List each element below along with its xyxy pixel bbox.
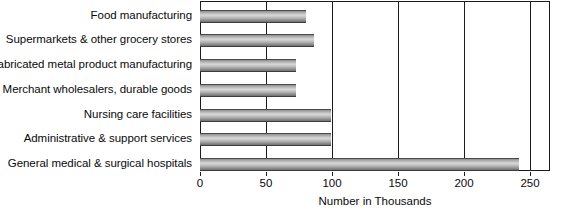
- x-axis-title: Number in Thousands: [200, 195, 550, 207]
- x-tick-label: 100: [322, 177, 341, 189]
- category-axis-labels: Food manufacturing Supermarkets & other …: [0, 0, 196, 172]
- x-axis: Number in Thousands 050100150200250: [0, 172, 565, 218]
- x-tick-label: 50: [260, 177, 273, 189]
- x-tick-label: 150: [388, 177, 407, 189]
- x-tick-label: 250: [520, 177, 539, 189]
- category-label: Supermarkets & other grocery stores: [6, 33, 192, 45]
- x-tick-label: 0: [197, 177, 203, 189]
- x-tick-mark: [398, 172, 399, 176]
- plot-area: [200, 1, 550, 171]
- x-tick-mark: [464, 172, 465, 176]
- category-label: Fabricated metal product manufacturing: [0, 58, 192, 70]
- bar: [200, 109, 331, 122]
- bar: [200, 133, 331, 146]
- x-tick-mark: [332, 172, 333, 176]
- x-tick-label: 200: [454, 177, 473, 189]
- bar: [200, 158, 519, 171]
- x-tick-mark: [200, 172, 201, 176]
- category-label: Merchant wholesalers, durable goods: [3, 83, 192, 95]
- category-label: General medical & surgical hospitals: [8, 157, 192, 169]
- bars-layer: [200, 2, 549, 170]
- bar: [200, 34, 314, 47]
- category-label: Nursing care facilities: [84, 108, 192, 120]
- x-tick-mark: [530, 172, 531, 176]
- bar-chart: Food manufacturing Supermarkets & other …: [0, 0, 565, 218]
- x-tick-mark: [266, 172, 267, 176]
- bar: [200, 10, 306, 23]
- bar: [200, 59, 296, 72]
- bar: [200, 84, 296, 97]
- category-label: Food manufacturing: [91, 9, 192, 21]
- category-label: Administrative & support services: [24, 132, 192, 144]
